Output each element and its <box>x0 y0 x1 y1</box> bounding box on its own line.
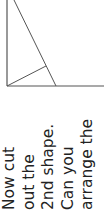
instruction-line-2: out the <box>20 117 40 212</box>
perpendicular-segment-line <box>7 66 46 86</box>
instruction-line-4: Can you <box>59 117 79 212</box>
diagonal-cut-line <box>14 0 56 86</box>
instruction-line-5: arrange the <box>78 117 98 212</box>
instruction-text: Now cut out the 2nd shape. Can you arran… <box>0 117 104 212</box>
cut-shape-diagram <box>0 0 104 95</box>
document-page: Now cut out the 2nd shape. Can you arran… <box>0 0 104 212</box>
instruction-line-3: 2nd shape. <box>39 117 59 212</box>
instruction-line-1: Now cut <box>0 117 20 212</box>
